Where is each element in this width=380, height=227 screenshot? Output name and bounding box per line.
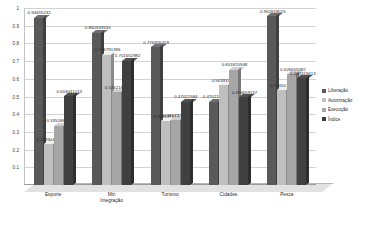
legend-item[interactable]: Autorização: [322, 98, 378, 103]
bar[interactable]: 0.525216213: [112, 92, 121, 185]
bar[interactable]: 0.358997164: [161, 121, 170, 185]
bar-slot: 0.534507896: [277, 8, 286, 185]
bar-slot: 0.651820948: [229, 8, 238, 185]
legend-label: Autorização: [328, 98, 352, 103]
legend-swatch-icon: [322, 98, 326, 102]
bar[interactable]: 0.651820948: [229, 70, 238, 185]
bar-slot: 0.604318413: [297, 8, 306, 185]
bar[interactable]: 0.736791396: [102, 55, 111, 185]
bar-slot: 0.776926409: [151, 8, 160, 185]
bar-slot: 0.503041013: [64, 8, 73, 185]
x-axis-category-label: Esporte: [24, 192, 82, 220]
y-axis-tick-label: 0.4: [13, 112, 19, 117]
bar[interactable]: 0.503041013: [64, 96, 73, 185]
bar[interactable]: 0.563933572: [219, 85, 228, 185]
y-axis-tick-label: 0.8: [13, 41, 19, 46]
y-axis-tick-label: 1: [16, 6, 19, 11]
bar-slot: 0.335186997: [54, 8, 63, 185]
bar-slot: 0.860949533: [92, 8, 101, 185]
bar-slot: 0.358997164: [161, 8, 170, 185]
legend-item[interactable]: Execução: [322, 107, 378, 112]
bar-slot: 0.229304125: [44, 8, 53, 185]
y-axis-tick-label: 0.2: [13, 147, 19, 152]
bar[interactable]: 0.47021584: [181, 102, 190, 185]
bar[interactable]: 0.335186997: [54, 126, 63, 185]
y-axis-tick-label: 0.1: [13, 165, 19, 170]
bar[interactable]: 0.604318413: [297, 78, 306, 185]
chart-legend: LiberaçãoAutorizaçãoExecuçãoÍndice: [322, 88, 378, 126]
bar[interactable]: 0.534507896: [277, 90, 286, 185]
bar-slot: 0.563933572: [219, 8, 228, 185]
y-axis-tick-label: 0.7: [13, 59, 19, 64]
y-axis-tick-labels: 10.90.80.70.60.50.40.30.20.1: [0, 8, 22, 185]
bar-slot: 0.952818025: [267, 8, 276, 185]
x-axis-category-label: Cidades: [199, 192, 257, 220]
bar-slot: 0.626655382: [287, 8, 296, 185]
x-axis-category-label: Pesca: [258, 192, 316, 220]
y-axis-tick-label: 0.6: [13, 76, 19, 81]
bar[interactable]: 0.366722804: [171, 120, 180, 185]
bar-slot: 0.701652982: [122, 8, 131, 185]
bar[interactable]: 0.494659157: [239, 97, 248, 185]
y-axis-tick-label: 0.9: [13, 23, 19, 28]
legend-swatch-icon: [322, 117, 326, 121]
bar[interactable]: 0.701652982: [122, 61, 131, 185]
legend-item[interactable]: Índice: [322, 117, 378, 122]
bar[interactable]: 0.776926409: [151, 47, 160, 185]
x-axis-category-label: Min Integração: [82, 192, 140, 220]
legend-label: Índice: [328, 117, 340, 122]
bar-slot: 0.525216213: [112, 8, 121, 185]
bar[interactable]: 0.860949533: [92, 33, 101, 185]
bar[interactable]: 0.952818025: [267, 16, 276, 185]
bar-group: 0.7769264090.3589971640.3667228040.47021…: [141, 8, 199, 185]
bar-slot: 0.47021584: [181, 8, 190, 185]
y-axis-tick-label: 0.3: [13, 129, 19, 134]
bar-group: 0.470215840.5639335720.6518209480.494659…: [199, 8, 257, 185]
y-axis-tick-label: 0.5: [13, 94, 19, 99]
legend-item[interactable]: Liberação: [322, 88, 378, 93]
bar-group: 0.8609495330.7367913960.5252162130.70165…: [82, 8, 140, 185]
bar-slot: 0.736791396: [102, 8, 111, 185]
bar-group: 0.944552320.2293041250.3351869970.503041…: [24, 8, 82, 185]
bar[interactable]: 0.229304125: [44, 144, 53, 185]
legend-swatch-icon: [322, 89, 326, 93]
bar-slot: 0.366722804: [171, 8, 180, 185]
bar-slot: 0.47021584: [209, 8, 218, 185]
bar[interactable]: 0.47021584: [209, 102, 218, 185]
plot-area: 0.944552320.2293041250.3351869970.503041…: [24, 8, 316, 185]
bar-group: 0.9528180250.5345078960.6266553820.60431…: [258, 8, 316, 185]
x-axis-category-label: Turismo: [141, 192, 199, 220]
bar-groups: 0.944552320.2293041250.3351869970.503041…: [24, 8, 316, 185]
bar[interactable]: 0.626655382: [287, 74, 296, 185]
bar[interactable]: 0.94455232: [34, 18, 43, 185]
bar-slot: 0.94455232: [34, 8, 43, 185]
x-axis-category-labels: EsporteMin IntegraçãoTurismoCidadesPesca: [24, 192, 316, 220]
legend-swatch-icon: [322, 108, 326, 112]
chart-container: 10.90.80.70.60.50.40.30.20.1 0.944552320…: [0, 0, 380, 227]
legend-label: Liberação: [328, 88, 348, 93]
bar-slot: 0.494659157: [239, 8, 248, 185]
legend-label: Execução: [328, 107, 348, 112]
